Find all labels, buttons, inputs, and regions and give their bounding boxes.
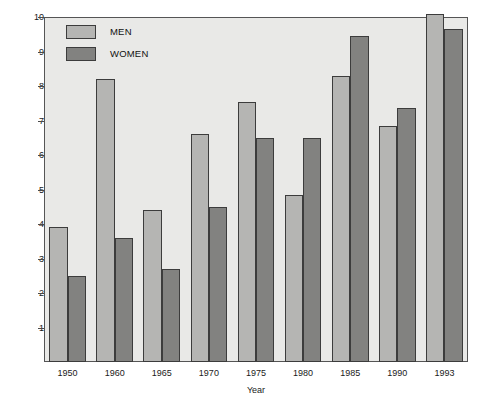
bar-women-1965 — [162, 269, 180, 362]
x-tick-label-1965: 1965 — [152, 368, 172, 378]
x-tick-label-1993: 1993 — [434, 368, 454, 378]
y-axis-title: Unemployment Rate (Percent) — [0, 0, 16, 408]
bar-men-1970 — [191, 134, 209, 362]
bar-men-1990 — [379, 126, 397, 362]
legend-swatch-men — [66, 25, 96, 39]
bar-women-1975 — [256, 138, 274, 362]
x-tick-label-1975: 1975 — [246, 368, 266, 378]
bar-women-1960 — [115, 238, 133, 362]
bar-men-1980 — [285, 195, 303, 362]
bar-men-1950 — [49, 227, 67, 362]
legend: MENWOMEN — [66, 22, 176, 66]
bar-women-1993 — [444, 29, 462, 362]
bar-women-1970 — [209, 207, 227, 362]
bars-layer — [44, 17, 468, 362]
bar-women-1980 — [303, 138, 321, 362]
unemployment-bar-chart: Unemployment Rate (Percent) 12345678910 … — [0, 0, 489, 408]
bar-women-1950 — [68, 276, 86, 362]
x-tick-label-1950: 1950 — [58, 368, 78, 378]
legend-item-men: MEN — [66, 22, 176, 41]
bar-women-1990 — [397, 108, 415, 362]
legend-label-men: MEN — [110, 26, 132, 37]
x-tick-label-1980: 1980 — [293, 368, 313, 378]
x-tick-label-1990: 1990 — [387, 368, 407, 378]
legend-swatch-women — [66, 47, 96, 61]
bar-men-1993 — [426, 14, 444, 362]
x-tick-label-1985: 1985 — [340, 368, 360, 378]
bar-men-1960 — [96, 79, 114, 362]
bar-women-1985 — [350, 36, 368, 362]
bar-men-1965 — [143, 210, 161, 362]
x-axis-title: Year — [44, 385, 468, 395]
legend-label-women: WOMEN — [110, 48, 148, 59]
bar-men-1975 — [238, 102, 256, 362]
bar-men-1985 — [332, 76, 350, 362]
legend-item-women: WOMEN — [66, 44, 176, 63]
x-tick-label-1960: 1960 — [105, 368, 125, 378]
x-tick-label-1970: 1970 — [199, 368, 219, 378]
